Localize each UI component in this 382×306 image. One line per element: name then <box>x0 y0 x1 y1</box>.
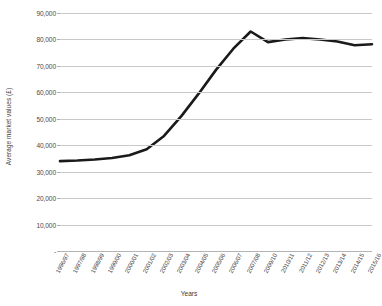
gridline-80000 <box>60 39 372 40</box>
y-tick-label-20000: 20,000 <box>36 195 56 202</box>
x-tick-label-2001-02: 2001/02 <box>141 252 157 274</box>
x-tick-label-1996-97: 1996/97 <box>54 252 70 274</box>
x-tick-label-2006-07: 2006/07 <box>227 252 243 274</box>
x-tick-label-2012-13: 2012/13 <box>314 252 330 274</box>
y-tick-mark-60000 <box>57 92 60 93</box>
y-axis-title-wrap: Average market values (£) <box>2 46 16 206</box>
x-tick-label-2002-03: 2002/03 <box>158 252 174 274</box>
x-tick-label-1997-98: 1997/98 <box>71 252 87 274</box>
y-tick-label-30000: 30,000 <box>36 168 56 175</box>
x-tick-label-2011-12: 2011/12 <box>297 252 313 274</box>
series-path <box>60 32 372 162</box>
gridline-60000 <box>60 92 372 93</box>
y-tick-label-70000: 70,000 <box>36 62 56 69</box>
y-tick-mark-80000 <box>57 39 60 40</box>
y-axis-title: Average market values (£) <box>6 87 13 164</box>
x-tick-label-2005-06: 2005/06 <box>210 252 226 274</box>
series-line-average-market-values <box>60 13 372 251</box>
x-tick-label-1998-99: 1998/99 <box>89 252 105 274</box>
gridline-10000 <box>60 225 372 226</box>
y-tick-label-10000: 10,000 <box>36 221 56 228</box>
y-tick-mark-40000 <box>57 145 60 146</box>
y-tick-label-50000: 50,000 <box>36 115 56 122</box>
x-tick-label-2003-04: 2003/04 <box>175 252 191 274</box>
gridline-30000 <box>60 172 372 173</box>
y-tick-mark-70000 <box>57 66 60 67</box>
gridline-70000 <box>60 66 372 67</box>
x-tick-label-2014-15: 2014/15 <box>349 252 365 274</box>
gridline-20000 <box>60 198 372 199</box>
y-tick-mark-90000 <box>57 13 60 14</box>
x-tick-label-2004-05: 2004/05 <box>193 252 209 274</box>
y-axis-tick-labels: -10,00020,00030,00040,00050,00060,00070,… <box>16 0 58 255</box>
y-tick-mark-50000 <box>57 119 60 120</box>
plot-area <box>60 13 372 251</box>
y-tick-mark-20000 <box>57 198 60 199</box>
y-tick-label-60000: 60,000 <box>36 89 56 96</box>
y-tick-label-40000: 40,000 <box>36 142 56 149</box>
y-tick-label-0: - <box>54 248 56 255</box>
x-tick-label-2000-01: 2000/01 <box>123 252 139 274</box>
x-tick-label-2009-10: 2009/10 <box>262 252 278 274</box>
y-tick-mark-30000 <box>57 172 60 173</box>
y-tick-label-90000: 90,000 <box>36 10 56 17</box>
gridline-90000 <box>60 13 372 14</box>
y-tick-label-80000: 80,000 <box>36 36 56 43</box>
y-tick-mark-10000 <box>57 225 60 226</box>
gridline-40000 <box>60 145 372 146</box>
x-axis-title: Years <box>0 290 378 297</box>
x-tick-label-2007-08: 2007/08 <box>245 252 261 274</box>
x-tick-label-1999-00: 1999/00 <box>106 252 122 274</box>
gridline-50000 <box>60 119 372 120</box>
x-tick-label-2015-16: 2015/16 <box>366 252 382 274</box>
x-tick-label-2013-14: 2013/14 <box>331 252 347 274</box>
x-tick-label-2010-11: 2010/11 <box>280 252 296 274</box>
